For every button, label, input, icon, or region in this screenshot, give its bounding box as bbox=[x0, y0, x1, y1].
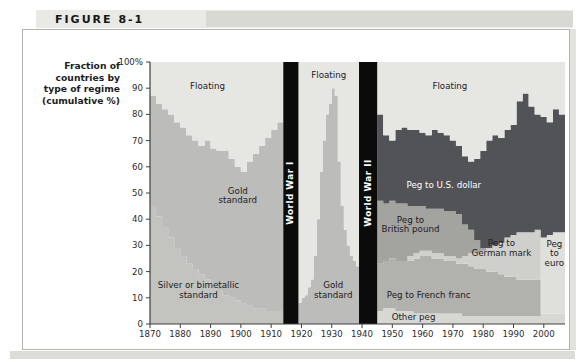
region-label-peg-to-french-franc: Peg to French franc bbox=[387, 290, 471, 300]
war-bar-label-world-war-i: World War I bbox=[285, 161, 295, 225]
y-tick-label: 60 bbox=[132, 162, 143, 172]
y-tick-label: 0 bbox=[138, 319, 143, 329]
war-bar-label-world-war-ii: World War II bbox=[363, 159, 373, 226]
region-label-floating: Floating bbox=[311, 70, 346, 80]
x-tick-label: 1960 bbox=[412, 329, 434, 339]
x-tick-label: 1990 bbox=[503, 329, 525, 339]
x-tick-label: 2000 bbox=[533, 329, 555, 339]
region-label-peg-to-u-s-dollar: Peg to U.S. dollar bbox=[406, 180, 481, 190]
x-tick-label: 1940 bbox=[351, 329, 373, 339]
y-tick-label: 40 bbox=[132, 214, 143, 224]
x-tick-label: 1930 bbox=[321, 329, 343, 339]
y-tick-label: 80 bbox=[132, 109, 143, 119]
x-tick-label: 1950 bbox=[381, 329, 403, 339]
x-tick-label: 1900 bbox=[230, 329, 252, 339]
x-tick-label: 1970 bbox=[442, 329, 464, 339]
y-tick-label: 70 bbox=[132, 136, 143, 146]
regime-stacked-area-chart: World War IWorld War II100%9080706050403… bbox=[0, 0, 583, 362]
y-tick-label: 90 bbox=[132, 83, 143, 93]
x-tick-label: 1880 bbox=[169, 329, 191, 339]
x-tick-label: 1870 bbox=[139, 329, 161, 339]
region-label-other-peg: Other peg bbox=[392, 312, 436, 322]
y-tick-label: 30 bbox=[132, 240, 143, 250]
x-tick-label: 1980 bbox=[472, 329, 494, 339]
y-tick-label: 20 bbox=[132, 267, 143, 277]
x-tick-label: 1890 bbox=[200, 329, 222, 339]
y-tick-label: 50 bbox=[132, 188, 143, 198]
x-tick-label: 1920 bbox=[291, 329, 313, 339]
x-tick-label: 1910 bbox=[260, 329, 282, 339]
region-label-floating: Floating bbox=[432, 81, 467, 91]
region-label-floating: Floating bbox=[190, 81, 225, 91]
y-tick-label: 100% bbox=[118, 57, 143, 67]
y-tick-label: 10 bbox=[132, 293, 143, 303]
